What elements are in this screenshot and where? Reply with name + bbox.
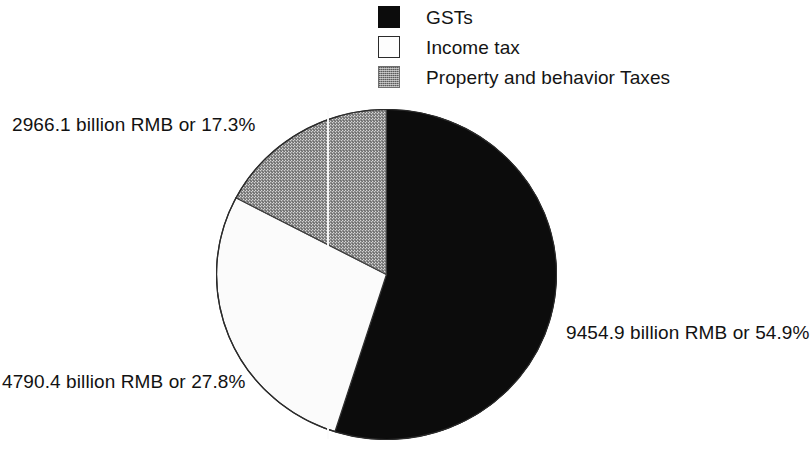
- pie-label-property: 2966.1 billion RMB or 17.3%: [12, 114, 256, 136]
- pie-chart: [216, 109, 557, 440]
- stippled-gray-swatch-icon: [378, 66, 400, 88]
- legend-label-income-tax: Income tax: [426, 38, 520, 57]
- solid-black-swatch-icon: [378, 6, 400, 28]
- legend-label-gsts: GSTs: [426, 8, 473, 27]
- pie-chart-svg: [216, 109, 557, 440]
- pie-label-income-tax: 4790.4 billion RMB or 27.8%: [2, 371, 246, 393]
- legend-label-property: Property and behavior Taxes: [426, 68, 670, 87]
- chart-legend: GSTs Income tax Property and behavior Ta…: [378, 2, 708, 92]
- legend-item-income-tax: Income tax: [378, 32, 708, 62]
- pie-label-gsts: 9454.9 billion RMB or 54.9%: [566, 322, 810, 344]
- legend-item-gsts: GSTs: [378, 2, 708, 32]
- legend-item-property: Property and behavior Taxes: [378, 62, 708, 92]
- outlined-white-swatch-icon: [378, 36, 400, 58]
- scan-crease-artifact: [327, 110, 329, 439]
